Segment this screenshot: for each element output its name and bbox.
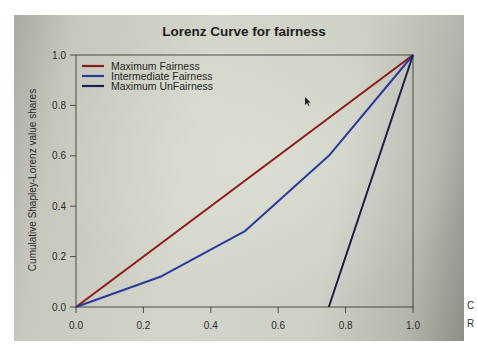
side-glyph-c: C xyxy=(467,300,474,311)
x-tick-label: 0.2 xyxy=(136,320,150,331)
legend-label: Maximum UnFairness xyxy=(111,80,213,92)
y-axis: 0.00.20.40.60.81.0 xyxy=(52,50,76,313)
y-tick-label: 1.0 xyxy=(52,50,66,61)
x-tick-label: 1.0 xyxy=(406,320,420,331)
legend: Maximum FairnessIntermediate FairnessMax… xyxy=(82,60,213,92)
series-line-2 xyxy=(329,55,413,307)
chart-title: Lorenz Curve for fairness xyxy=(162,24,326,39)
y-tick-label: 0.4 xyxy=(52,201,66,212)
series-line-0 xyxy=(76,55,413,307)
x-tick-label: 0.4 xyxy=(204,320,218,331)
x-tick-label: 0.0 xyxy=(69,320,83,331)
y-tick-label: 0.6 xyxy=(52,150,66,161)
y-axis-label: Cumulative Shapley-Lorenz value shares xyxy=(27,89,38,271)
side-glyph-r: R xyxy=(467,318,474,329)
x-tick-label: 0.8 xyxy=(339,320,353,331)
x-tick-label: 0.6 xyxy=(271,320,285,331)
mouse-cursor-icon xyxy=(305,97,311,106)
series-lines xyxy=(76,55,413,307)
y-tick-label: 0.0 xyxy=(52,302,66,313)
y-axis-label-group: Cumulative Shapley-Lorenz value shares xyxy=(27,89,38,271)
y-tick-label: 0.2 xyxy=(52,251,66,262)
lorenz-chart: Lorenz Curve for fairness Cumulative Sha… xyxy=(0,0,477,353)
x-axis: 0.00.20.40.60.81.0 xyxy=(69,307,420,331)
y-tick-label: 0.8 xyxy=(52,100,66,111)
